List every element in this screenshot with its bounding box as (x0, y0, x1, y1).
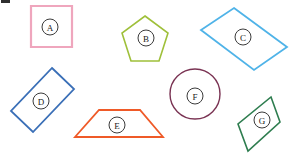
label-text: D (38, 97, 45, 107)
label-text: A (47, 23, 54, 33)
label-text: B (143, 34, 149, 44)
shape-label-d: D (33, 93, 49, 109)
shape-label-f: F (187, 88, 203, 104)
figure-canvas: ABCDEFG (0, 0, 289, 153)
shape-label-g: G (254, 112, 270, 128)
label-text: G (259, 116, 266, 126)
shape-label-e: E (109, 117, 125, 133)
label-text: E (114, 121, 120, 131)
label-text: F (192, 92, 197, 102)
shape-label-a: A (42, 19, 58, 35)
shape-label-c: C (235, 29, 251, 45)
shapes-diagram: ABCDEFG (0, 0, 289, 153)
shape-label-b: B (138, 30, 154, 46)
label-text: C (240, 33, 246, 43)
